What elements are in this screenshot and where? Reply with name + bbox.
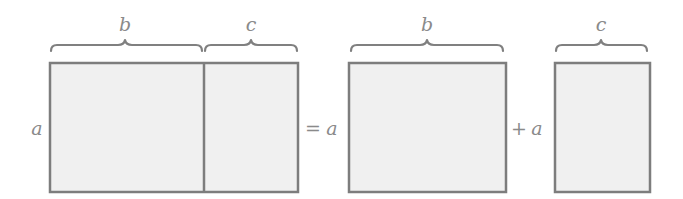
combined-rectangle-group: b c a <box>31 13 298 192</box>
brace-c-right <box>556 40 647 51</box>
plus-sign: + <box>511 117 527 139</box>
equals-sign: = <box>305 117 321 139</box>
label-c-left: c <box>246 13 257 35</box>
ab-rectangle-group: b <box>349 13 506 192</box>
label-a-plus: a <box>531 117 542 139</box>
combined-rectangle <box>50 63 298 192</box>
ac-rectangle-group: c <box>555 13 650 192</box>
distributive-area-diagram: b c a = a b + a c <box>0 0 683 199</box>
ac-rectangle <box>555 63 650 192</box>
brace-c-left <box>205 40 297 51</box>
label-b-left: b <box>119 13 131 35</box>
ab-rectangle <box>349 63 506 192</box>
brace-b-left <box>51 40 202 51</box>
label-a-equals: a <box>326 117 337 139</box>
label-a-side: a <box>31 117 42 139</box>
equals-group: = a <box>305 117 338 139</box>
label-c-right: c <box>596 13 607 35</box>
brace-b-middle <box>351 40 503 51</box>
label-b-middle: b <box>421 13 433 35</box>
plus-group: + a <box>511 117 543 139</box>
